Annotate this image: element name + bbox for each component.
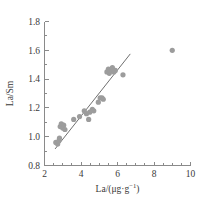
x-tick-label: 2 xyxy=(42,169,47,179)
x-tick-label: 6 xyxy=(115,169,120,179)
scatter-chart-figure: 2468100.81.01.21.41.61.8La/(μg·g−1)La/Sm xyxy=(0,0,205,204)
x-tick-label: 4 xyxy=(79,169,84,179)
data-point xyxy=(101,97,106,102)
y-tick-label: 1.4 xyxy=(28,74,40,84)
data-point xyxy=(57,136,62,141)
data-point xyxy=(120,72,125,77)
y-tick-label: 0.8 xyxy=(28,161,40,171)
x-tick-label: 10 xyxy=(186,169,196,179)
data-point xyxy=(86,117,91,122)
axis-frame xyxy=(45,22,191,166)
regression-line xyxy=(55,54,130,149)
y-tick-label: 1.8 xyxy=(28,17,40,27)
data-point xyxy=(62,127,67,132)
data-point xyxy=(113,68,118,73)
data-point xyxy=(77,114,82,119)
x-axis-title: La/(μg·g−1) xyxy=(96,182,140,194)
chart-canvas: 2468100.81.01.21.41.61.8La/(μg·g−1)La/Sm xyxy=(0,0,205,204)
y-axis-title: La/Sm xyxy=(5,80,15,106)
x-tick-label: 8 xyxy=(152,169,157,179)
data-point xyxy=(170,48,175,53)
y-tick-label: 1.2 xyxy=(28,103,40,113)
data-point xyxy=(71,117,76,122)
y-tick-label: 1.0 xyxy=(28,132,40,142)
data-point xyxy=(91,108,96,113)
y-tick-label: 1.6 xyxy=(28,46,40,56)
data-point-group xyxy=(53,48,175,147)
